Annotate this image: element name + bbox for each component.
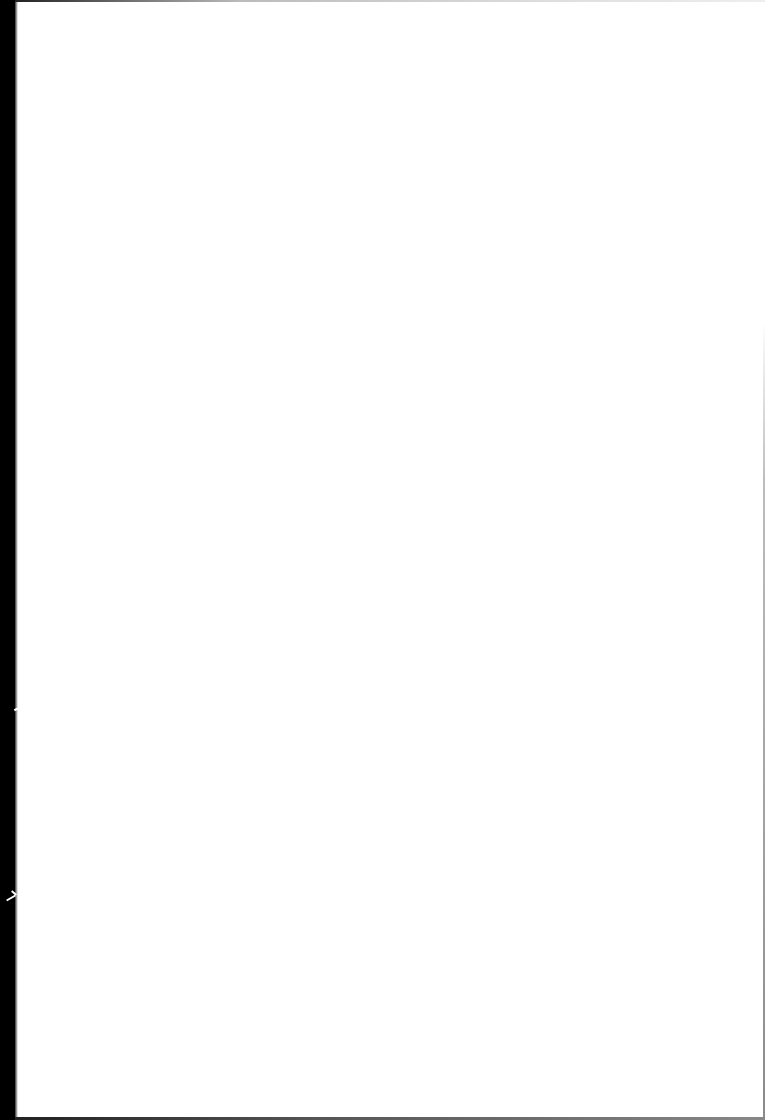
binding-shadow-strip	[0, 0, 15, 1120]
scanned-page	[0, 0, 765, 1120]
blank-page-body	[18, 2, 763, 1117]
